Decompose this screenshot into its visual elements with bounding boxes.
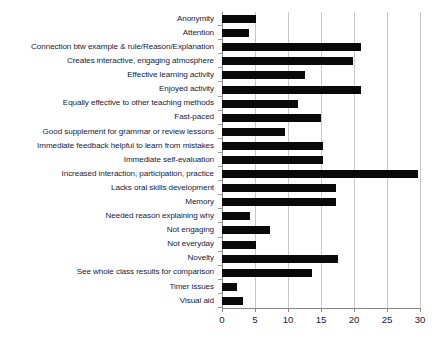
bar-row	[222, 125, 420, 139]
bar	[222, 297, 243, 305]
category-label: Creates interactive, engaging atmosphere	[0, 54, 218, 68]
category-label: Memory	[0, 195, 218, 209]
bars-layer	[222, 12, 420, 308]
bar	[222, 142, 323, 150]
bar	[222, 283, 237, 291]
bar	[222, 29, 249, 37]
horizontal-bar-chart: AnonymityAttentionConnection btw example…	[0, 0, 442, 346]
category-label: Anonymity	[0, 12, 218, 26]
bar-row	[222, 238, 420, 252]
bar-row	[222, 139, 420, 153]
category-label: See whole class results for comparison	[0, 266, 218, 280]
bar	[222, 184, 336, 192]
category-label: Novelty	[0, 252, 218, 266]
category-label: Immediate self-evaluation	[0, 153, 218, 167]
category-label: Attention	[0, 26, 218, 40]
category-label: Not everyday	[0, 238, 218, 252]
category-label: Effective learning activity	[0, 68, 218, 82]
x-tick-label: 25	[382, 314, 393, 325]
bar	[222, 15, 256, 23]
bar	[222, 128, 285, 136]
category-label: Not engaging	[0, 223, 218, 237]
bar-row	[222, 26, 420, 40]
bar	[222, 269, 312, 277]
category-label: Lacks oral skills development	[0, 181, 218, 195]
bar-row	[222, 54, 420, 68]
category-label: Connection btw example & rule/Reason/Exp…	[0, 40, 218, 54]
category-label: Timer issues	[0, 280, 218, 294]
bar	[222, 71, 305, 79]
x-tick-label: 15	[316, 314, 327, 325]
bar-row	[222, 111, 420, 125]
bar	[222, 43, 361, 51]
bar-row	[222, 153, 420, 167]
x-tick-mark	[222, 308, 223, 312]
bar-row	[222, 266, 420, 280]
x-tick-mark	[354, 308, 355, 312]
bar	[222, 156, 323, 164]
category-label: Equally effective to other teaching meth…	[0, 97, 218, 111]
plot-area	[222, 12, 420, 308]
bar-row	[222, 68, 420, 82]
category-label: Good supplement for grammar or review le…	[0, 125, 218, 139]
bar	[222, 170, 418, 178]
bar	[222, 212, 250, 220]
x-tick-mark	[321, 308, 322, 312]
bar	[222, 255, 338, 263]
category-label: Enjoyed activity	[0, 82, 218, 96]
category-label: Fast-paced	[0, 111, 218, 125]
bar	[222, 226, 270, 234]
bar	[222, 241, 256, 249]
x-tick-mark	[387, 308, 388, 312]
bar-row	[222, 82, 420, 96]
bar-row	[222, 280, 420, 294]
gridline	[420, 12, 421, 308]
x-tick-label: 30	[415, 314, 426, 325]
bar	[222, 86, 361, 94]
category-label: Increased interaction, participation, pr…	[0, 167, 218, 181]
bar-row	[222, 40, 420, 54]
x-tick-label: 10	[283, 314, 294, 325]
x-tick-mark	[288, 308, 289, 312]
bar	[222, 198, 336, 206]
x-tick-label: 20	[349, 314, 360, 325]
x-tick-mark	[420, 308, 421, 312]
category-label: Needed reason explaining why	[0, 209, 218, 223]
bar-row	[222, 12, 420, 26]
bar	[222, 100, 298, 108]
bar-row	[222, 252, 420, 266]
x-axis-tick-marks	[222, 308, 420, 313]
bar-row	[222, 97, 420, 111]
x-tick-mark	[255, 308, 256, 312]
bar-row	[222, 209, 420, 223]
category-axis-labels: AnonymityAttentionConnection btw example…	[0, 12, 218, 308]
bar-row	[222, 223, 420, 237]
bar-row	[222, 294, 420, 308]
x-tick-label: 5	[252, 314, 257, 325]
category-label: Immediate feedback helpful to learn from…	[0, 139, 218, 153]
bar	[222, 57, 353, 65]
bar-row	[222, 195, 420, 209]
x-axis-tick-labels: 051015202530	[222, 314, 420, 330]
x-tick-label: 0	[219, 314, 224, 325]
bar-row	[222, 181, 420, 195]
bar-row	[222, 167, 420, 181]
category-label: Visual aid	[0, 294, 218, 308]
bar	[222, 114, 321, 122]
